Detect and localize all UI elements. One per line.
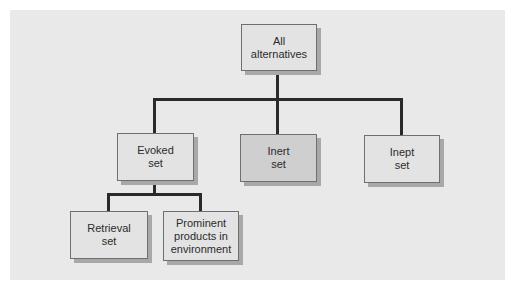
connector-to-prominent [199, 193, 202, 211]
node-label: Prominent products in environment [171, 217, 232, 256]
connector-level2-horizontal [107, 193, 202, 196]
node-label: Inept set [390, 146, 414, 172]
node-label: Retrieval set [87, 222, 130, 248]
node-inert-set: Inert set [240, 134, 317, 182]
connector-to-retrieval [107, 193, 110, 211]
node-inept-set: Inept set [364, 135, 440, 183]
node-evoked-set: Evoked set [117, 133, 194, 181]
connector-to-inert [276, 98, 279, 134]
connector-root-down [276, 70, 279, 101]
connector-to-inept [400, 98, 403, 135]
node-label: Evoked set [137, 144, 174, 170]
node-retrieval-set: Retrieval set [70, 211, 148, 259]
node-label: Inert set [267, 145, 289, 171]
connector-to-evoked [153, 98, 156, 133]
node-label: All alternatives [251, 35, 307, 61]
node-all-alternatives: All alternatives [241, 24, 317, 71]
node-prominent-products: Prominent products in environment [163, 211, 239, 261]
